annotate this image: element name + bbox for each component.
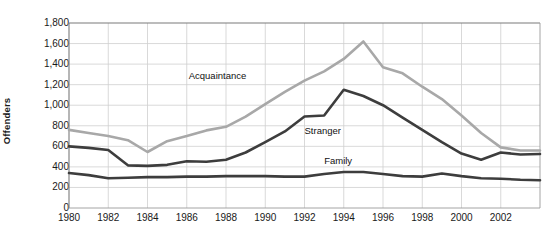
x-tick-label: 1988 xyxy=(206,212,246,223)
x-tick-label: 1986 xyxy=(167,212,207,223)
line-chart: Offenders 02004006008001,0001,2001,4001,… xyxy=(0,0,548,242)
x-tick-label: 1994 xyxy=(324,212,364,223)
x-tick-label: 1984 xyxy=(128,212,168,223)
x-tick-label: 2000 xyxy=(442,212,482,223)
x-tick-label: 1990 xyxy=(245,212,285,223)
x-tick-label: 1992 xyxy=(285,212,325,223)
series-label-acquaintance: Acquaintance xyxy=(189,70,247,81)
x-tick-label: 1982 xyxy=(88,212,128,223)
x-tick-label: 1980 xyxy=(49,212,89,223)
plot-area xyxy=(0,0,548,242)
x-tick-label: 1998 xyxy=(402,212,442,223)
x-tick-label: 2002 xyxy=(481,212,521,223)
series-label-stranger: Stranger xyxy=(305,125,341,136)
series-label-family: Family xyxy=(324,155,352,166)
x-tick-label: 1996 xyxy=(363,212,403,223)
